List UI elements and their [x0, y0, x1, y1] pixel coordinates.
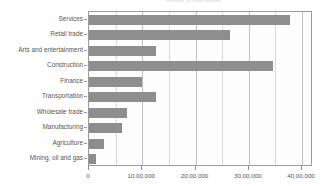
x-axis-tick-label: 10,00,000: [127, 172, 155, 180]
bar: [89, 46, 156, 56]
y-axis-tick-mark: [84, 65, 87, 66]
chart-title: Number of businesses: [118, 0, 268, 4]
plot-area: [88, 11, 312, 166]
bar: [89, 77, 142, 87]
x-axis-tick-label: 40,00,000: [287, 172, 315, 180]
x-axis-tick-mark: [195, 166, 196, 170]
x-axis: 010,00,00020,00,00030,00,00040,00,000: [88, 166, 328, 186]
y-axis-category-labels: ServicesRetail tradeArts and entertainme…: [0, 11, 86, 166]
x-axis-tick-mark: [301, 166, 302, 170]
bar: [89, 139, 104, 149]
y-axis-tick-mark: [84, 143, 87, 144]
bar-row: [89, 43, 313, 59]
y-axis-tick-mark: [84, 96, 87, 97]
bar: [89, 30, 230, 40]
y-axis-tick-label: Finance: [0, 77, 83, 85]
x-axis-tick-label: 30,00,000: [234, 172, 262, 180]
bar: [89, 92, 156, 102]
y-axis-tick-mark: [84, 112, 87, 113]
y-axis-tick-mark: [84, 50, 87, 51]
bar-row: [89, 121, 313, 137]
x-axis-tick-mark: [141, 166, 142, 170]
bar: [89, 61, 273, 71]
bar: [89, 123, 122, 133]
bar-row: [89, 136, 313, 152]
y-axis-tick-label: Arts and entertainment: [0, 46, 83, 54]
bar: [89, 154, 96, 164]
bar-row: [89, 152, 313, 168]
bar-row: [89, 59, 313, 75]
bar: [89, 15, 290, 25]
y-axis-tick-mark: [84, 81, 87, 82]
y-axis-tick-mark: [84, 34, 87, 35]
y-axis-tick-label: Agriculture: [0, 139, 83, 147]
bar-row: [89, 105, 313, 121]
y-axis-tick-label: Services: [0, 15, 83, 23]
y-axis-tick-label: Manufacturing: [0, 123, 83, 131]
y-axis-tick-label: Retail trade: [0, 30, 83, 38]
x-axis-tick-label: 0: [86, 172, 89, 180]
bar-row: [89, 74, 313, 90]
y-axis-tick-mark: [84, 158, 87, 159]
y-axis-tick-label: Construction: [0, 61, 83, 69]
x-axis-tick-mark: [88, 166, 89, 170]
y-axis-tick-mark: [84, 19, 87, 20]
bar-chart: Number of businesses ServicesRetail trad…: [0, 0, 328, 186]
y-axis-tick-mark: [84, 127, 87, 128]
y-axis-tick-label: Transportation: [0, 92, 83, 100]
x-axis-tick-label: 20,00,000: [181, 172, 209, 180]
bar-row: [89, 28, 313, 44]
bar-row: [89, 90, 313, 106]
y-axis-tick-label: Wholesale trade: [0, 108, 83, 116]
bar-series: [89, 12, 311, 165]
x-axis-tick-mark: [248, 166, 249, 170]
bar-row: [89, 12, 313, 28]
y-axis-tick-label: Mining, oil and gas: [0, 154, 83, 162]
bar: [89, 108, 127, 118]
